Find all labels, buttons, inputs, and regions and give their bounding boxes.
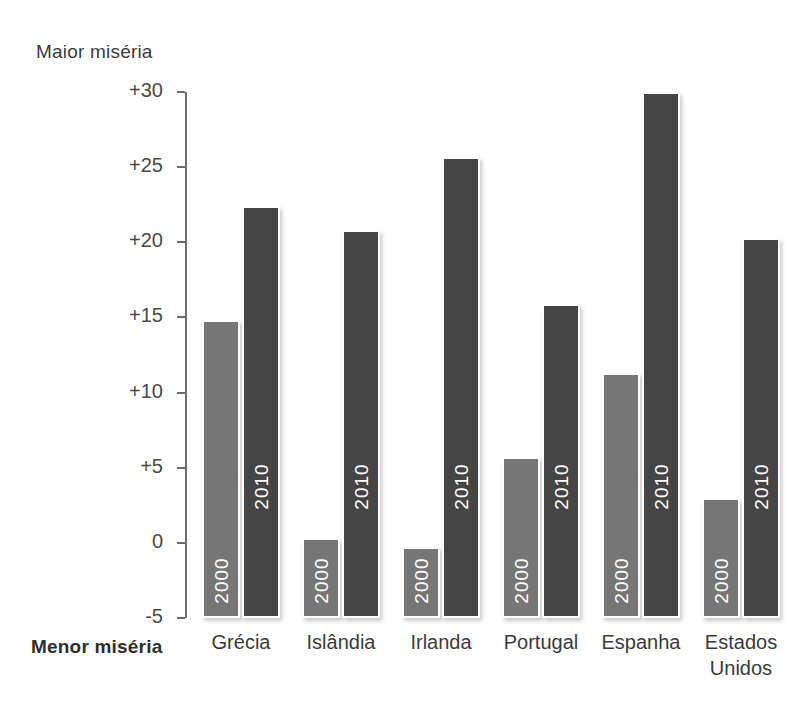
y-axis-tick (177, 316, 185, 318)
bar-grécia-2000: 2000 (202, 320, 240, 618)
y-axis-tick (177, 91, 185, 93)
y-axis-tick-label: +20 (129, 230, 163, 250)
bar-irlanda-2010: 2010 (442, 157, 480, 618)
bar-irlanda-2000: 2000 (402, 547, 440, 618)
bar-value-label: 2010 (552, 463, 571, 509)
bar-value-label: 2000 (512, 557, 531, 603)
y-axis-tick-label: +30 (129, 80, 163, 100)
bar-group: 20002010 (302, 92, 380, 618)
x-axis-category-label: Espanha (588, 630, 694, 656)
y-axis-tick (177, 467, 185, 469)
y-axis-tick (177, 542, 185, 544)
y-axis-tick-label: -5 (145, 606, 163, 626)
x-axis-category-label: Islândia (288, 630, 394, 656)
y-axis-tick (177, 166, 185, 168)
bar-estados-unidos-2000: 2000 (702, 498, 740, 618)
bar-group: 20002010 (402, 92, 480, 618)
x-axis-category-label: Irlanda (388, 630, 494, 656)
bar-group: 20002010 (502, 92, 580, 618)
bar-estados-unidos-2010: 2010 (742, 238, 780, 618)
bar-value-label: 2000 (312, 557, 331, 603)
y-axis-tick-label: +25 (129, 155, 163, 175)
y-axis-spine (185, 92, 187, 618)
axis-caption-bottom: Menor miséria (31, 636, 162, 658)
bar-value-label: 2010 (652, 463, 671, 509)
y-axis-tick (177, 392, 185, 394)
bar-espanha-2000: 2000 (602, 373, 640, 618)
y-axis-tick-label: +10 (129, 381, 163, 401)
bar-islândia-2010: 2010 (342, 230, 380, 618)
bar-portugal-2010: 2010 (542, 304, 580, 618)
y-axis-tick (177, 617, 185, 619)
bar-group: 20002010 (202, 92, 280, 618)
x-axis-category-label: Estados Unidos (688, 630, 790, 681)
bar-value-label: 2000 (612, 557, 631, 603)
bar-islândia-2000: 2000 (302, 538, 340, 618)
bar-value-label: 2010 (452, 463, 471, 509)
y-axis-tick (177, 241, 185, 243)
bar-value-label: 2000 (712, 557, 731, 603)
x-axis-category-label: Portugal (488, 630, 594, 656)
bar-group: 20002010 (602, 92, 680, 618)
bar-grécia-2010: 2010 (242, 206, 280, 618)
bar-value-label: 2000 (412, 557, 431, 603)
y-axis-tick-label: 0 (152, 531, 163, 551)
bar-value-label: 2000 (212, 557, 231, 603)
bar-portugal-2000: 2000 (502, 457, 540, 618)
bar-espanha-2010: 2010 (642, 92, 680, 618)
x-axis-category-label: Grécia (188, 630, 294, 656)
bar-value-label: 2010 (752, 463, 771, 509)
plot-area: +30+25+20+15+10+50-520002010200020102000… (185, 92, 725, 618)
bar-value-label: 2010 (352, 463, 371, 509)
axis-caption-top: Maior miséria (36, 41, 153, 63)
bar-group: 20002010 (702, 92, 780, 618)
bar-value-label: 2010 (252, 463, 271, 509)
y-axis-tick-label: +5 (140, 456, 163, 476)
y-axis-tick-label: +15 (129, 305, 163, 325)
